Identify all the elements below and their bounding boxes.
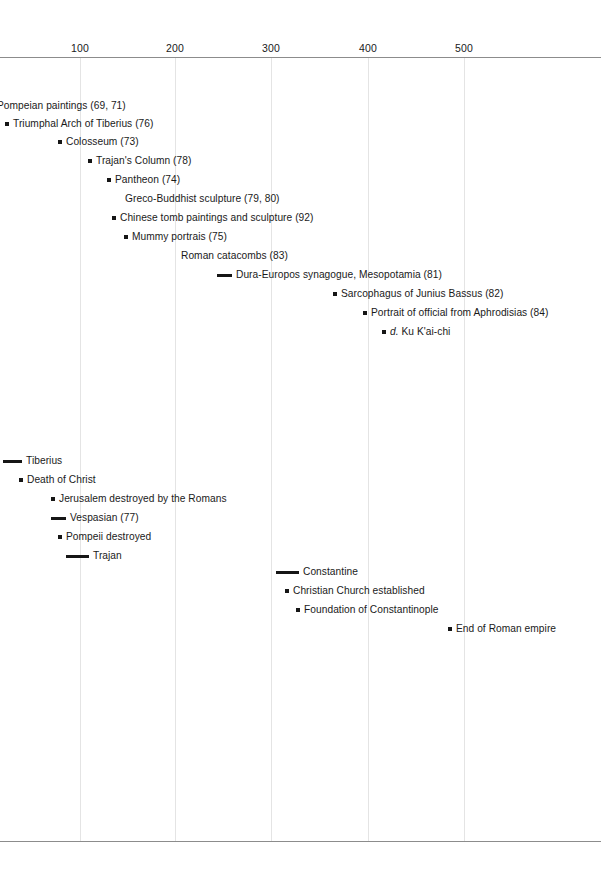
timeline-entry-label: Christian Church established — [293, 586, 425, 596]
point-marker-icon — [107, 178, 111, 182]
point-marker-icon — [5, 122, 9, 126]
timeline-entry-label: Chinese tomb paintings and sculpture (92… — [120, 213, 313, 223]
gridline — [368, 58, 369, 841]
timeline-entry-label: d. Ku K'ai-chi — [390, 327, 450, 337]
timeline-entry-label: End of Roman empire — [456, 624, 556, 634]
duration-bar-marker — [51, 517, 66, 520]
timeline-entry: Jerusalem destroyed by the Romans — [51, 492, 227, 506]
timeline-entry: Constantine — [276, 565, 358, 579]
timeline-entry-label: Jerusalem destroyed by the Romans — [59, 494, 227, 504]
timeline-entry: Chinese tomb paintings and sculpture (92… — [112, 211, 313, 225]
duration-bar-marker — [66, 555, 89, 558]
timeline-entry: Pompeii destroyed — [58, 530, 151, 544]
gridline — [80, 58, 81, 841]
timeline-entry-label: Mummy portrais (75) — [132, 232, 227, 242]
timeline-entry-label: Greco-Buddhist sculpture (79, 80) — [125, 194, 280, 204]
timeline-entry-label: Pompeii destroyed — [66, 532, 151, 542]
point-marker-icon — [363, 311, 367, 315]
point-marker-icon — [333, 292, 337, 296]
gridline — [464, 58, 465, 841]
axis-line-bottom — [0, 841, 601, 842]
axis-tick-label: 400 — [359, 42, 377, 54]
timeline-entry: Tiberius — [3, 454, 62, 468]
timeline-entry-label: Trajan's Column (78) — [96, 156, 191, 166]
timeline-entry: Pantheon (74) — [107, 173, 180, 187]
point-marker-icon — [88, 159, 92, 163]
point-marker-icon — [285, 589, 289, 593]
timeline-entry: d. Ku K'ai-chi — [382, 325, 450, 339]
timeline-entry: Christian Church established — [285, 584, 425, 598]
timeline-entry: Portrait of official from Aphrodisias (8… — [363, 306, 548, 320]
axis-tick-label: 500 — [455, 42, 473, 54]
timeline-entry: End of Roman empire — [448, 622, 556, 636]
timeline-entry: Trajan's Column (78) — [88, 154, 191, 168]
timeline-entry-label: Death of Christ — [27, 475, 96, 485]
timeline-entry: Pompeian paintings (69, 71) — [0, 99, 126, 113]
point-marker-icon — [382, 330, 386, 334]
timeline-entry-label: Roman catacombs (83) — [181, 251, 288, 261]
timeline-entry-label: Pantheon (74) — [115, 175, 180, 185]
axis-tick-label: 200 — [166, 42, 184, 54]
point-marker-icon — [58, 140, 62, 144]
gridline — [271, 58, 272, 841]
duration-bar-marker — [217, 274, 232, 277]
timeline-entry: Greco-Buddhist sculpture (79, 80) — [125, 192, 280, 206]
timeline-entry: Mummy portrais (75) — [124, 230, 227, 244]
timeline-entry: Sarcophagus of Junius Bassus (82) — [333, 287, 503, 301]
timeline-chart: 100200300400500 Pompeian paintings (69, … — [0, 0, 601, 892]
timeline-entry-label: Colosseum (73) — [66, 137, 139, 147]
timeline-entry-label: Pompeian paintings (69, 71) — [0, 101, 126, 111]
point-marker-icon — [448, 627, 452, 631]
axis-tick-label: 100 — [71, 42, 89, 54]
timeline-entry: Colosseum (73) — [58, 135, 139, 149]
axis-tick-label: 300 — [262, 42, 280, 54]
timeline-entry-label: Constantine — [303, 567, 358, 577]
timeline-entry: Triumphal Arch of Tiberius (76) — [5, 117, 153, 131]
point-marker-icon — [112, 216, 116, 220]
duration-bar-marker — [3, 460, 22, 463]
duration-bar-marker — [276, 571, 299, 574]
axis-line-top — [0, 57, 601, 58]
timeline-entry-label: Triumphal Arch of Tiberius (76) — [13, 119, 153, 129]
timeline-entry-label: Portrait of official from Aphrodisias (8… — [371, 308, 548, 318]
point-marker-icon — [296, 608, 300, 612]
timeline-entry: Death of Christ — [19, 473, 96, 487]
timeline-entry: Vespasian (77) — [51, 511, 139, 525]
timeline-entry: Roman catacombs (83) — [181, 249, 288, 263]
timeline-entry: Foundation of Constantinople — [296, 603, 439, 617]
timeline-entry-label: Vespasian (77) — [70, 513, 139, 523]
point-marker-icon — [58, 535, 62, 539]
timeline-entry-label: Sarcophagus of Junius Bassus (82) — [341, 289, 503, 299]
point-marker-icon — [19, 478, 23, 482]
timeline-entry: Dura-Europos synagogue, Mesopotamia (81) — [217, 268, 442, 282]
timeline-entry: Trajan — [66, 549, 122, 563]
point-marker-icon — [124, 235, 128, 239]
timeline-entry-label: Foundation of Constantinople — [304, 605, 439, 615]
timeline-entry-label: Tiberius — [26, 456, 62, 466]
point-marker-icon — [51, 497, 55, 501]
timeline-entry-label: Trajan — [93, 551, 122, 561]
timeline-entry-label: Dura-Europos synagogue, Mesopotamia (81) — [236, 270, 442, 280]
